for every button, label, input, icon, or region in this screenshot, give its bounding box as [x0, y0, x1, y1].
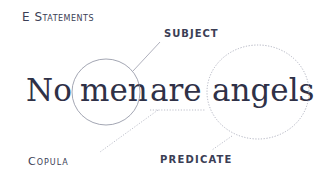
- copula-word: are: [150, 68, 202, 112]
- copula-label: Copula: [28, 155, 69, 168]
- diagram-title: E Statements: [22, 10, 94, 24]
- subject-word: men: [80, 68, 148, 112]
- predicate-label: PREDICATE: [160, 154, 233, 165]
- quantifier-word: No: [26, 68, 72, 112]
- subject-label: SUBJECT: [164, 28, 219, 39]
- predicate-word: angels: [212, 68, 314, 112]
- subject-connector: [133, 42, 160, 71]
- predicate-connector: [212, 136, 232, 150]
- example-sentence: No men are angels: [0, 68, 328, 118]
